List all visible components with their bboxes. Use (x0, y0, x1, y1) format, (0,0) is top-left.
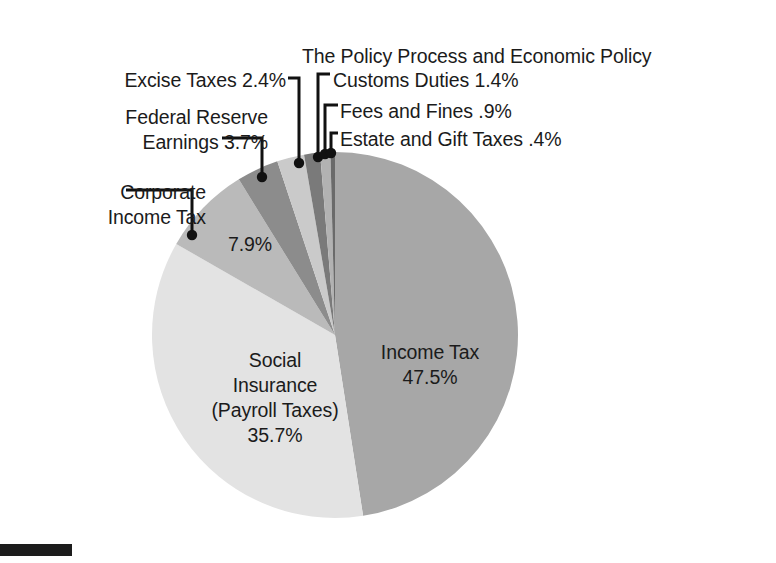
slice-label-excise-taxes: Excise Taxes 2.4% (124, 68, 286, 93)
leader-dot-corporate-income-tax (187, 230, 197, 240)
slice-value-corporate-income-tax: 7.9% (228, 232, 272, 257)
slice-label-income-tax: Income Tax 47.5% (355, 340, 505, 390)
leader-dot-estate-and-gift-taxes (326, 148, 336, 158)
slice-label-customs-duties: Customs Duties 1.4% (333, 68, 519, 93)
slice-label-social-insurance: Social Insurance (Payroll Taxes) 35.7% (180, 348, 370, 448)
slice-label-federal-reserve-earnings: Federal Reserve Earnings 3.7% (125, 105, 268, 155)
slice-label-corporate-income-tax: Corporate Income Tax (108, 180, 206, 230)
leader-dot-excise-taxes (294, 158, 304, 168)
social-line-1: Social (180, 348, 370, 373)
social-value: 35.7% (180, 423, 370, 448)
social-line-3: (Payroll Taxes) (180, 398, 370, 423)
slice-label-estate-and-gift-taxes: Estate and Gift Taxes .4% (340, 127, 562, 152)
income-tax-name: Income Tax (355, 340, 505, 365)
pie-slice-income-tax[interactable] (335, 152, 518, 516)
footer-rule (0, 544, 72, 556)
leader-dot-federal-reserve-earnings (257, 172, 267, 182)
pie-slice-group (152, 152, 518, 518)
social-line-2: Insurance (180, 373, 370, 398)
pie-chart-page: The Policy Process and Economic Policy C… (0, 0, 776, 563)
page-title: The Policy Process and Economic Policy (302, 44, 652, 69)
federal-reserve-line-2: Earnings 3.7% (125, 130, 268, 155)
income-tax-value: 47.5% (355, 365, 505, 390)
leader-excise-taxes (288, 78, 299, 163)
federal-reserve-line-1: Federal Reserve (125, 105, 268, 130)
slice-label-fees-and-fines: Fees and Fines .9% (340, 99, 512, 124)
corporate-line-1: Corporate (108, 180, 206, 205)
corporate-line-2: Income Tax (108, 205, 206, 230)
